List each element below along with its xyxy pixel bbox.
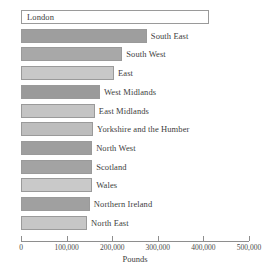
- bar: [21, 66, 114, 80]
- x-axis-tick: [21, 236, 22, 241]
- bar: [21, 85, 100, 99]
- bar-label: East Midlands: [99, 104, 149, 118]
- bar: [21, 160, 92, 174]
- x-axis-tick-label: 500,000: [237, 243, 261, 253]
- bar-label: North West: [96, 141, 136, 155]
- bar-label: London: [27, 10, 54, 24]
- bar: [21, 104, 95, 118]
- bar: [21, 178, 92, 192]
- bar-label: South West: [126, 47, 166, 61]
- bar-label: Yorkshire and the Humber: [97, 122, 189, 136]
- x-axis-tick-label: 200,000: [100, 243, 124, 253]
- x-axis-tick-label: 100,000: [54, 243, 78, 253]
- plot-area: LondonSouth EastSouth WestEastWest Midla…: [0, 0, 270, 273]
- x-axis-tick: [203, 236, 204, 241]
- bar: [21, 197, 90, 211]
- bar: [21, 216, 87, 230]
- x-axis-tick: [158, 236, 159, 241]
- bar-label: North East: [91, 216, 129, 230]
- x-axis-line: [21, 241, 249, 242]
- x-axis-tick: [112, 236, 113, 241]
- x-axis-tick: [249, 236, 250, 241]
- bar-label: Scotland: [96, 160, 127, 174]
- bar: [21, 141, 92, 155]
- x-axis-tick-label: 0: [19, 243, 23, 253]
- x-axis-tick-label: 300,000: [146, 243, 170, 253]
- x-axis-tick: [67, 236, 68, 241]
- bar-label: Northern Ireland: [94, 197, 152, 211]
- bar-label: South East: [151, 29, 189, 43]
- bar: [21, 47, 122, 61]
- bar-label: West Midlands: [104, 85, 156, 99]
- bar-label: Wales: [96, 178, 117, 192]
- bar-chart: LondonSouth EastSouth WestEastWest Midla…: [0, 0, 270, 273]
- x-axis-tick-label: 400,000: [191, 243, 215, 253]
- bar: [21, 29, 147, 43]
- bar-label: East: [118, 66, 133, 80]
- bar: [21, 122, 93, 136]
- x-axis-title: Pounds: [0, 254, 270, 264]
